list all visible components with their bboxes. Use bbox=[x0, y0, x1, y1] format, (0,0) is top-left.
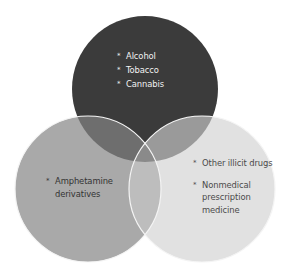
list-item: *Alcohol bbox=[117, 50, 164, 63]
venn-diagram bbox=[0, 0, 284, 276]
bullet-icon: * bbox=[117, 50, 120, 63]
bullet-icon: * bbox=[193, 179, 196, 192]
list-item: *Nonmedical prescription medicine bbox=[193, 179, 273, 217]
bullet-icon: * bbox=[193, 157, 196, 170]
left-circle-label: *Amphetamine derivatives bbox=[46, 175, 136, 200]
list-item: *Other illicit drugs bbox=[193, 157, 273, 170]
bullet-icon: * bbox=[46, 175, 49, 188]
right-circle-label: *Other illicit drugs *Nonmedical prescri… bbox=[193, 157, 273, 225]
list-item: *Cannabis bbox=[117, 78, 164, 91]
bullet-icon: * bbox=[117, 64, 120, 77]
bullet-icon: * bbox=[117, 78, 120, 91]
top-circle-label: *Alcohol *Tobacco *Cannabis bbox=[117, 50, 164, 92]
list-item: *Amphetamine derivatives bbox=[46, 175, 136, 200]
list-item: *Tobacco bbox=[117, 64, 164, 77]
